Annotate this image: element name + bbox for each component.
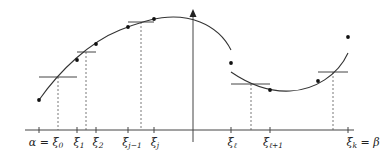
sample-point (75, 58, 79, 62)
sample-point (229, 61, 233, 65)
sample-point (126, 25, 130, 29)
sample-point (268, 88, 272, 92)
label-xi2: ξ2 (93, 136, 104, 152)
label-xi-l-plus-1: ξℓ+1 (263, 136, 283, 152)
label-xi1: ξ1 (74, 136, 85, 152)
sample-point (152, 17, 156, 21)
label-xi-l: ξℓ (227, 136, 236, 152)
sample-point (94, 42, 98, 46)
sample-point (316, 79, 320, 83)
label-xi-k-beta: ξk = β (346, 136, 379, 152)
sample-point (37, 98, 41, 102)
label-xi-j-minus-1: ξj−1 (122, 136, 141, 152)
label-xi0: α = ξ0 (29, 136, 63, 152)
sample-point (346, 35, 350, 39)
y-axis-arrow-icon (190, 9, 197, 17)
curve-left-branch (39, 17, 231, 100)
dashed-guides (58, 22, 333, 130)
label-xi-j: ξj (151, 136, 159, 152)
